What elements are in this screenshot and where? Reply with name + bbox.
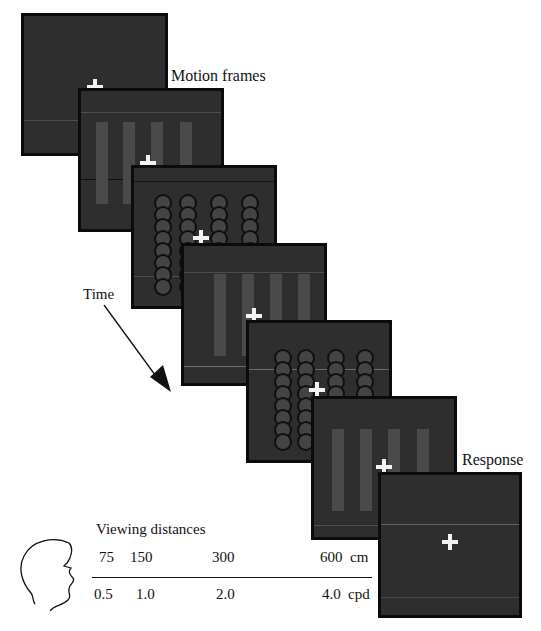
viewing-distances-title: Viewing distances	[96, 521, 206, 538]
head-profile-icon	[14, 538, 94, 618]
motion-experiment-diagram: Motion frames	[0, 0, 541, 631]
cpd-0.5: 0.5	[94, 586, 113, 603]
time-arrow-icon	[0, 0, 541, 631]
distance-150: 150	[130, 549, 153, 566]
cpd-unit: cpd	[348, 586, 370, 603]
distance-75: 75	[99, 549, 114, 566]
cpd-2.0: 2.0	[216, 586, 235, 603]
cpd-4.0: 4.0	[322, 586, 341, 603]
cpd-1.0: 1.0	[136, 586, 155, 603]
distance-unit: cm	[350, 549, 368, 566]
scale-divider	[92, 577, 372, 578]
distance-600: 600	[320, 549, 343, 566]
distance-300: 300	[212, 549, 235, 566]
